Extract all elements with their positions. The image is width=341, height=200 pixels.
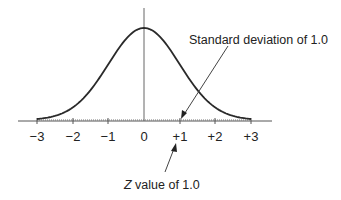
z-value-label: Z value of 1.0 [123,178,200,192]
tick-label: +3 [244,129,259,144]
arrowhead-icon [171,143,177,152]
tick-label: +1 [173,129,188,144]
tick-label: −2 [66,129,81,144]
tick-label: +2 [208,129,223,144]
tick-label: −1 [101,129,116,144]
std-dev-label: Standard deviation of 1.0 [189,33,328,47]
normal-distribution-diagram: −3 −2 −1 0 +1 +2 +3 Standard deviation o… [0,0,341,200]
tick-label: 0 [140,129,147,144]
tick-label: −3 [30,129,45,144]
